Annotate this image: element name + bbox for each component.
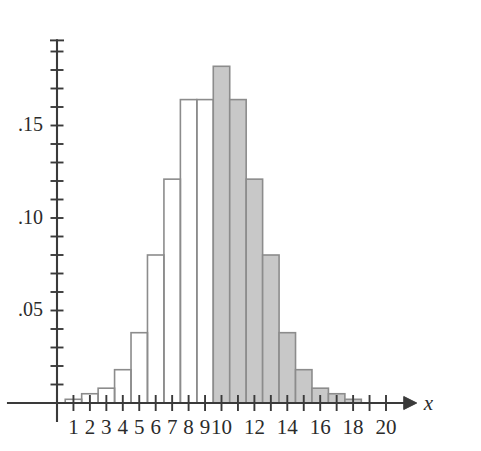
x-axis-tick-label: 7 <box>167 415 178 439</box>
x-axis-tick-label: 18 <box>343 415 364 439</box>
histogram-bar <box>164 179 180 403</box>
histogram-bar <box>213 66 229 403</box>
x-axis-tick-label: 20 <box>376 415 397 439</box>
bars-layer <box>65 66 361 403</box>
x-axis-tick-label: 9 <box>200 415 211 439</box>
x-axis-tick-labels: 123456789101214161820 <box>68 415 396 439</box>
x-axis-arrow-icon <box>404 397 417 410</box>
histogram-chart: .05.10.15 123456789101214161820 x <box>0 0 481 451</box>
chart-canvas: .05.10.15 123456789101214161820 x <box>0 0 481 451</box>
histogram-bar <box>263 255 279 403</box>
x-axis-tick-label: 6 <box>150 415 161 439</box>
histogram-bar <box>197 100 213 403</box>
x-axis-tick-label: 1 <box>68 415 79 439</box>
x-axis-tick-label: 5 <box>134 415 145 439</box>
x-axis-name: x <box>423 391 434 415</box>
y-axis-tick-labels: .05.10.15 <box>18 113 43 320</box>
x-axis-tick-label: 16 <box>310 415 331 439</box>
histogram-bar <box>279 333 295 403</box>
x-axis-tick-label: 12 <box>244 415 265 439</box>
histogram-bar <box>131 333 147 403</box>
x-axis-tick-label: 14 <box>277 415 299 439</box>
y-axis-tick-label: .10 <box>18 206 43 228</box>
histogram-bar <box>147 255 163 403</box>
x-axis-tick-label: 8 <box>183 415 194 439</box>
axes-layer <box>8 40 417 421</box>
x-axis-tick-label: 3 <box>101 415 112 439</box>
y-axis-tick-label: .05 <box>18 298 43 320</box>
x-axis-tick-label: 4 <box>118 415 129 439</box>
x-axis-tick-label: 10 <box>211 415 232 439</box>
histogram-bar <box>230 100 246 403</box>
x-axis-tick-label: 2 <box>85 415 96 439</box>
histogram-bar <box>180 100 196 403</box>
histogram-bar <box>246 179 262 403</box>
x-axis-label: x <box>423 391 434 415</box>
y-axis-tick-label: .15 <box>18 113 43 135</box>
